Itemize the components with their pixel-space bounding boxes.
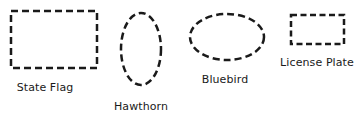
state-flag-label: State Flag (17, 81, 74, 94)
hawthorn-ellipse (121, 13, 161, 85)
license-plate-rectangle (291, 15, 344, 44)
bluebird-label: Bluebird (202, 73, 249, 86)
state-flag-rectangle (11, 11, 97, 68)
hawthorn-label: Hawthorn (114, 100, 168, 113)
bluebird-ellipse (190, 14, 264, 60)
license-plate-label: License Plate (280, 56, 354, 69)
